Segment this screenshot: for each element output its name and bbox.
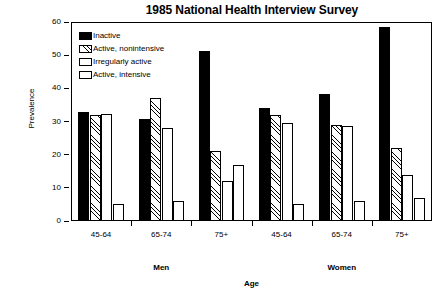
x-tick-label: 65-74	[131, 230, 191, 239]
chart-container: 1985 National Health Interview Survey Pr…	[0, 0, 447, 300]
legend-label: Inactive	[93, 31, 121, 40]
bar	[402, 175, 413, 221]
panel-label-men: Men	[121, 263, 201, 272]
legend-item: Active, nonintensive	[79, 42, 164, 55]
bar	[173, 201, 184, 221]
y-tick-mark	[64, 154, 69, 155]
legend-label: Active, intensive	[93, 70, 151, 79]
bar-group	[259, 22, 305, 221]
bar	[379, 27, 390, 221]
legend-item: Active, intensive	[79, 68, 164, 81]
legend-item: Inactive	[79, 29, 164, 42]
x-tick-label: 45-64	[71, 230, 131, 239]
y-tick-label: 30	[36, 117, 61, 126]
x-tick-label: 45-64	[252, 230, 312, 239]
legend-swatch-hatch	[79, 45, 92, 53]
y-tick-mark	[64, 187, 69, 188]
y-tick-label: 40	[36, 83, 61, 92]
bar	[78, 112, 89, 221]
bar	[270, 115, 281, 221]
x-tick-mark	[312, 221, 313, 226]
chart-title: 1985 National Health Interview Survey	[71, 3, 433, 17]
legend-label: Irregularly active	[93, 57, 152, 66]
legend-swatch-solid	[79, 32, 92, 40]
y-tick-mark	[64, 55, 69, 56]
bar-group	[379, 22, 425, 221]
chart-legend: InactiveActive, nonintensiveIrregularly …	[79, 29, 164, 81]
bar	[259, 108, 270, 221]
x-tick-mark	[131, 221, 132, 226]
bar	[354, 201, 365, 221]
y-tick-label: 10	[36, 183, 61, 192]
bar	[414, 198, 425, 221]
y-tick-mark	[64, 22, 69, 23]
y-tick-mark	[64, 221, 69, 222]
x-tick-label: 75+	[191, 230, 251, 239]
bar	[282, 123, 293, 221]
bar	[90, 115, 101, 221]
y-axis-title: Prevalence	[27, 69, 36, 149]
bar	[319, 94, 330, 221]
bar	[113, 204, 124, 221]
bar	[331, 125, 342, 221]
bar	[293, 204, 304, 221]
y-tick-label: 20	[36, 150, 61, 159]
y-tick-label: 0	[36, 216, 61, 225]
panel-label-women: Women	[302, 263, 382, 272]
bar	[139, 119, 150, 221]
legend-swatch-dots	[79, 58, 92, 66]
x-tick-mark	[252, 221, 253, 226]
bar	[233, 165, 244, 221]
bar	[150, 98, 161, 221]
x-tick-label: 65-74	[312, 230, 372, 239]
legend-swatch-open	[79, 71, 92, 79]
bar	[222, 181, 233, 221]
x-tick-mark	[191, 221, 192, 226]
bar	[391, 148, 402, 221]
bar-group	[319, 22, 365, 221]
y-tick-label: 50	[36, 50, 61, 59]
bar	[342, 126, 353, 221]
x-tick-mark	[372, 221, 373, 226]
y-tick-mark	[64, 121, 69, 122]
legend-item: Irregularly active	[79, 55, 164, 68]
bar	[210, 151, 221, 221]
legend-label: Active, nonintensive	[93, 44, 164, 53]
x-axis-title: Age	[71, 279, 432, 288]
y-tick-mark	[64, 88, 69, 89]
bar-group	[199, 22, 245, 221]
x-tick-label: 75+	[372, 230, 432, 239]
y-tick-label: 60	[36, 17, 61, 26]
bar	[162, 128, 173, 221]
bar	[199, 51, 210, 221]
bar	[101, 114, 112, 221]
